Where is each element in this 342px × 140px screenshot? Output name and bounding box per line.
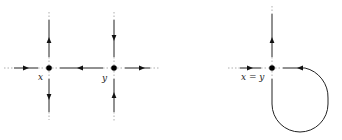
label-x: x [38,72,43,82]
right-panel: x = y [228,6,328,132]
left-panel: x y [4,12,160,122]
node-x [46,65,52,71]
dotted-extensions [4,12,160,122]
node-x-equals-y [269,65,275,71]
label-y: y [101,73,108,83]
node-y [111,65,117,71]
trajectories [14,20,150,112]
label-x-equals-y: x = y [241,72,265,82]
phase-diagram: x y x = y [0,0,342,140]
